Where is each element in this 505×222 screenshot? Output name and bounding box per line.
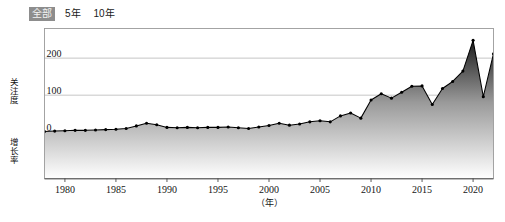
- data-point[interactable]: [410, 85, 413, 88]
- data-point[interactable]: [318, 119, 321, 122]
- y-tick-label: 100: [47, 85, 62, 96]
- x-tick-label: 2015: [412, 184, 432, 195]
- chart-svg: 0100200198019851990199520002005201020152…: [0, 0, 505, 222]
- data-point[interactable]: [298, 123, 301, 126]
- data-point[interactable]: [441, 87, 444, 90]
- x-tick-label: 2005: [310, 184, 330, 195]
- data-point[interactable]: [461, 70, 464, 73]
- data-point[interactable]: [267, 124, 270, 127]
- x-tick-label: 2000: [259, 184, 279, 195]
- data-point[interactable]: [94, 128, 97, 131]
- data-point[interactable]: [165, 126, 168, 129]
- x-tick-label: 1995: [208, 184, 228, 195]
- data-point[interactable]: [257, 125, 260, 128]
- x-tick-label: 1990: [157, 184, 177, 195]
- data-point[interactable]: [431, 103, 434, 106]
- data-point[interactable]: [329, 120, 332, 123]
- data-point[interactable]: [135, 124, 138, 127]
- data-point[interactable]: [421, 84, 424, 87]
- data-point[interactable]: [186, 126, 189, 129]
- data-point[interactable]: [196, 126, 199, 129]
- data-point[interactable]: [114, 128, 117, 131]
- data-point[interactable]: [339, 114, 342, 117]
- data-point[interactable]: [155, 123, 158, 126]
- data-point[interactable]: [176, 126, 179, 129]
- data-point[interactable]: [125, 127, 128, 130]
- x-axis-ticks: 198019851990199520002005201020152020: [45, 179, 494, 195]
- data-point[interactable]: [380, 92, 383, 95]
- data-point[interactable]: [216, 126, 219, 129]
- x-tick-label: 2020: [463, 184, 483, 195]
- data-point[interactable]: [349, 111, 352, 114]
- x-tick-label: 2010: [361, 184, 381, 195]
- data-point[interactable]: [288, 124, 291, 127]
- chart-widget: 全部 5年 10年 关注度 增长率 0100200198019851990199…: [0, 0, 505, 222]
- y-tick-label: 200: [47, 48, 62, 59]
- data-point[interactable]: [247, 127, 250, 130]
- data-point[interactable]: [278, 122, 281, 125]
- data-point[interactable]: [482, 95, 485, 98]
- data-point[interactable]: [84, 129, 87, 132]
- data-point[interactable]: [472, 39, 475, 42]
- data-point[interactable]: [53, 130, 56, 133]
- data-point[interactable]: [390, 97, 393, 100]
- data-point[interactable]: [237, 126, 240, 129]
- data-point[interactable]: [370, 98, 373, 101]
- data-point[interactable]: [400, 91, 403, 94]
- y-tick-label: 0: [47, 122, 52, 133]
- data-point[interactable]: [206, 126, 209, 129]
- data-point[interactable]: [74, 129, 77, 132]
- data-point[interactable]: [145, 122, 148, 125]
- data-point[interactable]: [63, 129, 66, 132]
- x-tick-label: 1985: [106, 184, 126, 195]
- data-point[interactable]: [359, 117, 362, 120]
- data-point[interactable]: [308, 120, 311, 123]
- x-axis-unit-label: （年）: [256, 197, 283, 208]
- x-tick-label: 1980: [55, 184, 75, 195]
- data-point[interactable]: [104, 128, 107, 131]
- data-point[interactable]: [227, 125, 230, 128]
- data-point[interactable]: [451, 80, 454, 83]
- chart-canvas: 0100200198019851990199520002005201020152…: [0, 0, 505, 222]
